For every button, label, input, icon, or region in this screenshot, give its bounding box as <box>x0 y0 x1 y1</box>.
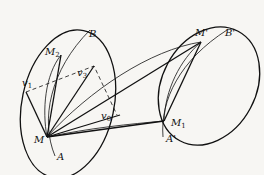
diagram: M A B M2 v1 v3 v0 M' B' M1 A' <box>0 0 264 175</box>
dashed-construction <box>26 66 117 115</box>
label-M2: M2 <box>44 46 60 59</box>
line-M-M1 <box>47 121 164 137</box>
label-Aprime: A' <box>165 133 176 144</box>
label-Mprime: M' <box>194 27 208 38</box>
label-M1: M1 <box>170 117 186 130</box>
vector-v1 <box>26 92 47 137</box>
label-Bprime: B' <box>224 27 235 38</box>
label-M: M <box>33 134 45 145</box>
label-A: A <box>56 151 64 162</box>
label-B: B <box>88 28 96 39</box>
label-v1: v1 <box>22 77 32 90</box>
label-v0: v0 <box>101 110 111 123</box>
